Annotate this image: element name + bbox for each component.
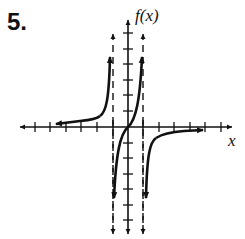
curve-left-branch-up	[100, 57, 110, 116]
y-axis-label: f(x)	[135, 6, 159, 26]
curve-middle-branch	[128, 57, 142, 127]
curve-middle-branch-down	[114, 127, 128, 198]
x-axis-label: x	[228, 131, 236, 151]
curve-right-branch-down	[146, 138, 156, 198]
graph	[0, 0, 245, 239]
curve-right-branch	[156, 130, 203, 138]
curve-left-branch	[56, 116, 100, 124]
